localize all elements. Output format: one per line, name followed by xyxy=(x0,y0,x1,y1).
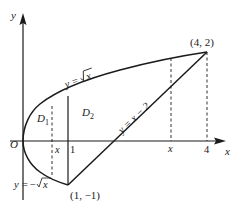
region-label-d1: D 1 xyxy=(36,112,49,127)
svg-text:1: 1 xyxy=(45,118,49,127)
svg-text:D: D xyxy=(36,112,45,124)
svg-text:x: x xyxy=(42,179,48,190)
region-diagram: y x O y = x y = − x y = x − 2 (4, 2) (1,… xyxy=(0,0,238,210)
tick-label-1: 1 xyxy=(70,144,75,155)
svg-text:2: 2 xyxy=(90,112,94,121)
tick-label-x-d1: x xyxy=(54,144,60,155)
svg-text:y: y xyxy=(13,179,19,190)
svg-text:y: y xyxy=(62,78,71,90)
origin-label: O xyxy=(10,138,18,150)
svg-text:D: D xyxy=(81,106,90,118)
label-neg-sqrt-x: y = − x xyxy=(13,178,51,190)
tick-label-x-d2: x xyxy=(167,143,173,154)
point-label-1-neg1: (1, −1) xyxy=(70,189,100,202)
svg-text:−: − xyxy=(30,179,36,190)
x-axis-label: x xyxy=(224,145,230,157)
label-line: y = x − 2 xyxy=(115,100,152,136)
y-axis-label: y xyxy=(10,9,16,21)
region-label-d2: D 2 xyxy=(81,106,94,121)
point-label-4-2: (4, 2) xyxy=(190,36,214,49)
svg-text:=: = xyxy=(22,179,28,190)
tick-label-4: 4 xyxy=(204,144,210,155)
label-sqrt-x: y = x xyxy=(62,68,96,90)
